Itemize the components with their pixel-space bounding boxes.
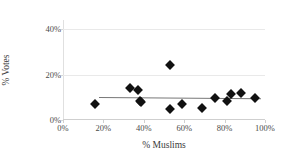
data-point-marker xyxy=(133,86,143,96)
gridline xyxy=(63,29,265,30)
trendline xyxy=(99,97,261,99)
plot-area xyxy=(63,20,265,120)
data-point-marker xyxy=(177,99,187,109)
y-axis-line xyxy=(63,20,64,120)
scatter-chart: 0%20%40%60%80%100% 0%20%40% % Muslims % … xyxy=(0,0,283,162)
y-tick-label: 20% xyxy=(45,70,61,80)
data-point-marker xyxy=(165,61,175,71)
x-tick-label: 20% xyxy=(96,123,112,133)
gridline xyxy=(63,75,265,76)
data-point-marker xyxy=(165,104,175,114)
y-tick-label: 0% xyxy=(50,115,61,125)
data-point-marker xyxy=(236,88,246,98)
x-tick-label: 80% xyxy=(217,123,233,133)
data-point-marker xyxy=(250,93,260,103)
x-axis-line xyxy=(63,119,265,120)
x-tick-label: 60% xyxy=(176,123,192,133)
data-point-marker xyxy=(90,99,100,109)
y-tick-label: 40% xyxy=(45,24,61,34)
data-point-marker xyxy=(210,93,220,103)
data-point-marker xyxy=(197,103,207,113)
y-axis-title: % Votes xyxy=(1,54,11,85)
x-tick-label: 40% xyxy=(136,123,152,133)
x-tick-label: 100% xyxy=(255,123,275,133)
x-axis-title: % Muslims xyxy=(63,140,265,150)
data-point-marker xyxy=(136,97,146,107)
